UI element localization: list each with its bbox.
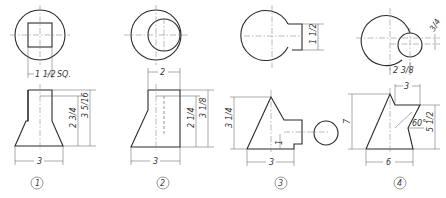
figure-1-inner-height: 2 3/4	[69, 107, 78, 128]
figure-1-top-dim: 1 1/2	[35, 70, 56, 79]
figure-2-top-view	[124, 5, 188, 90]
figure-1-label: 1	[35, 179, 40, 188]
figure-3-front-view	[230, 90, 338, 166]
figure-2-inner-height: 2 1/4	[187, 107, 196, 128]
figure-3-width: 3	[269, 158, 274, 167]
figure-4-small-dim: 3/4	[428, 17, 442, 33]
figure-4-offset-dim: 2 3/8	[393, 66, 414, 75]
figure-2-width: 3	[153, 157, 158, 166]
figure-3: 1 1/2 3 1/4 1 3 3	[225, 5, 338, 189]
figure-1-top-view	[10, 5, 70, 78]
figure-2-front-view	[131, 84, 214, 165]
figure-3-label: 3	[278, 179, 283, 188]
figure-4-height: 7	[343, 118, 352, 124]
figure-3-height: 3 1/4	[225, 107, 234, 128]
figure-3-notch-height: 1	[275, 140, 284, 145]
figure-4: 3/4 2 3/8 3 7 5 1/2 60° 6 4	[343, 8, 442, 189]
figure-2-label: 2	[160, 179, 165, 188]
figure-4-label: 4	[397, 179, 402, 188]
figure-2-top-dim: 2	[160, 68, 165, 77]
figure-4-top-view	[356, 8, 440, 75]
figure-1-sq-note: SQ.	[57, 70, 71, 79]
figure-4-width: 6	[386, 158, 391, 167]
figure-4-right-height: 5 1/2	[426, 111, 435, 132]
figure-1: 1 1/2 SQ. 2 3/4 3 5/16 3 1	[10, 5, 96, 189]
drawing-sheet: 1 1/2 SQ. 2 3/4 3 5/16 3 1	[0, 0, 446, 198]
figure-4-top-width: 3	[404, 82, 409, 91]
figure-3-top-dim: 1 1/2	[309, 23, 318, 44]
figure-4-angle: 60°	[412, 119, 426, 128]
figure-1-outer-height: 3 5/16	[81, 92, 90, 118]
figure-1-width: 3	[37, 157, 42, 166]
figure-2: 2 2 1/4 3 1/8 3 2	[124, 5, 214, 189]
figure-2-outer-height: 3 1/8	[199, 97, 208, 118]
